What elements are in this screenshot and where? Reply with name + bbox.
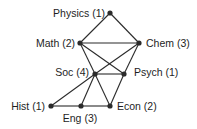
node-math [77,40,82,45]
node-hist [48,103,53,108]
node-psych [121,71,126,76]
node-eng [78,103,83,108]
node-chem [136,40,141,45]
edge-soc-econ [95,74,110,106]
edge-physics-chem [110,13,139,43]
node-label-psych: Psych (1) [134,66,178,78]
node-label-econ: Econ (2) [117,100,157,112]
node-soc [92,71,97,76]
edges-layer [51,13,139,106]
node-label-hist: Hist (1) [11,100,45,112]
node-label-physics: Physics (1) [53,7,105,19]
nodes-layer [48,10,141,108]
node-econ [107,103,112,108]
node-label-soc: Soc (4) [55,66,89,78]
network-graph: Physics (1)Math (2)Chem (3)Soc (4)Psych … [0,0,197,129]
node-label-math: Math (2) [36,37,75,49]
node-label-chem: Chem (3) [146,37,190,49]
node-physics [107,10,112,15]
node-label-eng: Eng (3) [63,112,97,124]
